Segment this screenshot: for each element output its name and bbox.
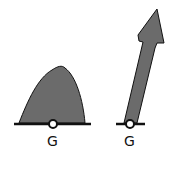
left-g-label: G bbox=[47, 134, 58, 148]
right-g-label: G bbox=[124, 134, 135, 148]
left-g-point bbox=[49, 120, 57, 128]
diagram-canvas bbox=[0, 0, 185, 171]
hump-shape bbox=[19, 66, 85, 123]
arrow-shape bbox=[124, 9, 164, 123]
right-g-point bbox=[126, 120, 134, 128]
